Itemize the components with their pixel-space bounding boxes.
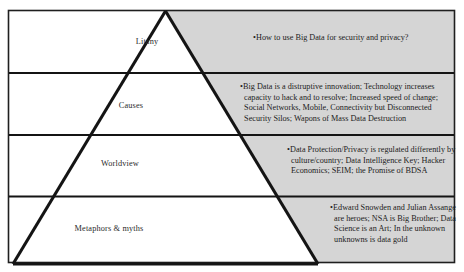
layer-body-text-metaphors: Edward Snowden and Julian Assange are he… <box>333 203 456 244</box>
layer-label-metaphors: Metaphors & myths <box>48 224 170 234</box>
layer-label-causes: Causes <box>100 101 162 111</box>
layer-label-litany: Litany <box>118 37 176 47</box>
layer-body-worldview: •Data Protection/Privacy is regulated di… <box>287 145 459 177</box>
layer-body-causes: •Big Data is a distruptive innovation; T… <box>240 82 460 125</box>
layer-body-text-worldview: Data Protection/Privacy is regulated dif… <box>290 145 455 175</box>
layer-body-text-litany: How to use Big Data for security and pri… <box>256 33 408 42</box>
layer-body-metaphors: •Edward Snowden and Julian Assange are h… <box>330 203 460 246</box>
layer-label-worldview: Worldview <box>82 159 158 169</box>
layer-body-litany: •How to use Big Data for security and pr… <box>253 33 455 44</box>
layer-body-text-causes: Big Data is a distruptive innovation; Te… <box>243 82 438 123</box>
cla-pyramid-diagram: Litany Causes Worldview Metaphors & myth… <box>0 0 464 272</box>
